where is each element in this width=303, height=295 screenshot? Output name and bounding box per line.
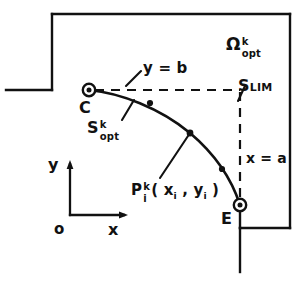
- label-p-i-superscript: k: [143, 182, 150, 192]
- label-p-i-args-close: ): [207, 181, 219, 199]
- label-p-i-subscript: i: [143, 194, 147, 204]
- label-omega-superscript: k: [242, 37, 249, 47]
- figure-canvas: Ωkopt SLIM y = b C Skopt Pki( xi , yi ) …: [0, 0, 303, 295]
- label-s-opt-subscript: opt: [100, 132, 119, 142]
- label-p-i-base: P: [131, 181, 142, 199]
- label-y-equals-b: y = b: [143, 61, 188, 76]
- diagram-svg: [0, 0, 303, 295]
- label-s-opt: Skopt: [87, 120, 99, 136]
- label-axis-x: x: [108, 222, 119, 238]
- label-axis-origin: o: [54, 222, 65, 237]
- label-s-opt-superscript: k: [100, 120, 107, 130]
- curve-node-3: [219, 166, 225, 172]
- label-s-lim-base: S: [238, 76, 250, 95]
- point-c-marker: [83, 84, 95, 96]
- label-omega-opt: Ωkopt: [226, 36, 241, 53]
- label-s-lim: SLIM: [238, 78, 272, 94]
- axis-arrowheads: [67, 160, 128, 218]
- label-omega-subscript: opt: [242, 49, 261, 59]
- coordinate-axes: [70, 164, 124, 215]
- label-p-i-args-open: ( x: [151, 181, 173, 199]
- leader-lines: [122, 71, 245, 178]
- axis-x-arrowhead: [119, 212, 128, 219]
- label-p-i-args-mid: , y: [177, 181, 204, 199]
- label-point-e: E: [221, 211, 232, 227]
- label-p-i: Pki( xi , yi ): [131, 183, 219, 200]
- point-e-marker: [234, 199, 246, 211]
- label-axis-y: y: [48, 157, 59, 173]
- label-s-lim-subscript: LIM: [250, 81, 273, 94]
- leader-s-opt: [122, 100, 134, 120]
- leader-p-i: [160, 133, 190, 178]
- label-x-equals-a: x = a: [246, 151, 287, 165]
- curve-node-1: [147, 100, 153, 106]
- label-omega-base: Ω: [226, 34, 241, 54]
- label-s-opt-base: S: [87, 118, 99, 137]
- axis-y-arrowhead: [67, 160, 74, 169]
- label-point-c: C: [79, 100, 91, 116]
- leader-y-equals-b: [126, 71, 141, 86]
